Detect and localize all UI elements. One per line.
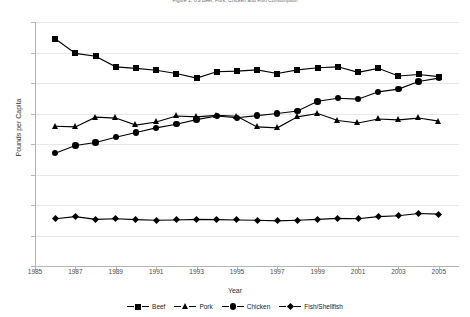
- legend-marker-triangle-icon: [182, 304, 188, 310]
- data-point: [173, 71, 179, 77]
- data-point: [395, 73, 401, 79]
- data-point: [294, 108, 300, 114]
- x-tick-label: 1991: [141, 269, 171, 276]
- legend-label: Beef: [152, 303, 165, 310]
- data-point: [314, 98, 320, 104]
- data-point: [132, 121, 138, 127]
- legend-line: [279, 306, 286, 308]
- legend-marker-glyph: [230, 303, 236, 309]
- legend-marker-diamond-icon: [287, 304, 293, 310]
- data-point: [133, 129, 139, 135]
- legend-line: [174, 306, 181, 308]
- data-point: [354, 119, 360, 125]
- data-point: [72, 123, 78, 129]
- chart-title: Figure 1. US Beef, Pork, Chicken and Fis…: [0, 0, 470, 3]
- legend-marker-glyph: [182, 303, 188, 309]
- legend-line: [294, 306, 301, 308]
- data-point: [415, 114, 421, 120]
- data-point: [274, 124, 280, 130]
- data-point: [375, 65, 381, 71]
- series-line-beef: [55, 39, 439, 78]
- data-point: [173, 112, 179, 118]
- data-point: [334, 117, 340, 123]
- x-axis-line: [35, 266, 459, 267]
- legend-line: [237, 306, 244, 308]
- legend-marker-glyph: [135, 304, 141, 310]
- legend-label: Fish/Shellfish: [304, 303, 343, 310]
- legend-line: [142, 306, 149, 308]
- legend-item-chicken[interactable]: Chicken: [222, 303, 270, 310]
- data-point: [315, 65, 321, 71]
- data-point: [194, 75, 200, 81]
- data-point: [314, 110, 320, 116]
- data-point: [92, 114, 98, 120]
- data-point: [395, 116, 401, 122]
- data-point: [395, 86, 401, 92]
- data-point: [193, 116, 199, 122]
- x-tick-label: 2005: [424, 269, 454, 276]
- x-axis-title: Year: [0, 287, 470, 294]
- legend-line: [127, 306, 134, 308]
- data-point: [274, 71, 280, 77]
- data-point: [72, 142, 78, 148]
- x-tick-label: 1985: [20, 269, 50, 276]
- data-point: [415, 78, 421, 84]
- plot-area: [35, 22, 459, 266]
- data-point: [234, 115, 240, 121]
- legend-label: Chicken: [247, 303, 270, 310]
- data-point: [416, 71, 422, 77]
- x-tick-label: 1989: [101, 269, 131, 276]
- data-point: [294, 67, 300, 73]
- data-point: [153, 118, 159, 124]
- data-point: [133, 65, 139, 71]
- data-point: [254, 123, 260, 129]
- x-tick-label: 1993: [182, 269, 212, 276]
- data-point: [335, 64, 341, 70]
- data-point: [234, 68, 240, 74]
- data-point: [113, 64, 119, 70]
- data-point: [93, 53, 99, 59]
- data-point: [72, 50, 78, 56]
- x-tick-label: 2003: [383, 269, 413, 276]
- data-point: [294, 113, 300, 119]
- chart-legend: BeefPorkChickenFish/Shellfish: [0, 303, 470, 310]
- x-tick-label: 2001: [343, 269, 373, 276]
- legend-line: [222, 306, 229, 308]
- legend-item-fish-shellfish[interactable]: Fish/Shellfish: [279, 303, 343, 310]
- x-tick-label: 1987: [60, 269, 90, 276]
- data-point: [52, 36, 58, 42]
- data-point: [112, 114, 118, 120]
- data-point: [214, 69, 220, 75]
- x-tick-label: 1997: [262, 269, 292, 276]
- legend-item-beef[interactable]: Beef: [127, 303, 165, 310]
- data-point: [52, 123, 58, 129]
- legend-marker-square-icon: [135, 304, 141, 310]
- legend-line: [189, 306, 196, 308]
- data-point: [355, 69, 361, 75]
- legend-item-pork[interactable]: Pork: [174, 303, 212, 310]
- data-point: [92, 139, 98, 145]
- data-point: [435, 118, 441, 124]
- data-point: [173, 121, 179, 127]
- x-tick-label: 1999: [303, 269, 333, 276]
- data-point: [254, 112, 260, 118]
- data-point: [254, 67, 260, 73]
- x-tick-label: 1995: [222, 269, 252, 276]
- legend-marker-circle-icon: [230, 304, 236, 310]
- chart-container: Figure 1. US Beef, Pork, Chicken and Fis…: [0, 0, 470, 317]
- legend-label: Pork: [199, 303, 212, 310]
- data-point: [214, 113, 220, 119]
- data-point: [375, 115, 381, 121]
- data-point: [153, 67, 159, 73]
- y-axis-title: Pounds per Capita: [15, 73, 22, 183]
- legend-marker-glyph: [287, 303, 294, 310]
